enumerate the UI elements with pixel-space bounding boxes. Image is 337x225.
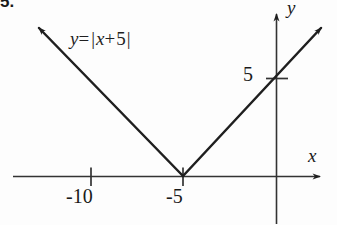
figure-canvas: 5. y=|x+5| y x 5 -10 -5 <box>0 0 337 225</box>
equation-label: y=|x+5| <box>70 29 131 48</box>
equation-relation: = <box>78 28 90 49</box>
graph-left-branch <box>39 28 183 176</box>
x-axis-label: x <box>308 146 316 165</box>
x-tick-label-neg10: -10 <box>66 186 93 206</box>
abs-bar-close: | <box>126 28 132 49</box>
graph-right-branch <box>183 28 321 176</box>
equation-arg-constant: 5 <box>116 28 126 49</box>
y-axis-label: y <box>287 0 295 17</box>
equation-arg-operator: + <box>104 28 116 49</box>
x-tick-label-neg5: -5 <box>166 186 183 206</box>
problem-number: 5. <box>0 0 14 10</box>
y-tick-label-5: 5 <box>243 64 253 84</box>
